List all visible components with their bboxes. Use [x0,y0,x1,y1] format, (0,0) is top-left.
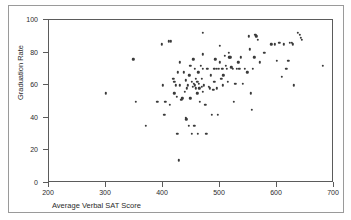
data-point [242,82,244,84]
data-point [278,42,280,44]
data-point [285,68,287,70]
data-point [205,133,207,135]
data-point [231,68,233,70]
data-point [292,43,294,45]
x-axis-tick-label: 500 [213,189,225,196]
data-point [206,68,208,70]
data-point [169,104,171,106]
data-point [178,159,180,161]
y-axis-tick [43,149,48,150]
data-point [186,87,188,89]
data-point [183,91,185,93]
data-point [198,82,200,84]
data-point [170,40,172,42]
data-point [283,43,285,45]
data-point [187,84,189,86]
data-point [210,74,212,76]
data-point [132,58,134,60]
data-point [227,51,229,53]
data-point [162,84,164,86]
data-point [179,61,181,63]
data-point [293,84,295,86]
data-point [173,81,175,83]
data-point [244,68,246,70]
x-axis-tick-label: 300 [99,189,111,196]
data-point [250,92,252,94]
data-point [197,133,199,135]
data-point [270,43,272,45]
data-point [263,51,265,53]
data-point [164,100,166,102]
data-points-layer [49,20,332,181]
x-axis-tick [333,182,334,187]
data-point [194,68,196,70]
data-point [190,133,192,135]
data-point [203,84,205,86]
data-point [227,81,229,83]
data-point [219,61,221,63]
data-point [212,89,214,91]
data-point [246,71,248,73]
data-point [226,68,228,70]
data-point [222,84,224,86]
y-axis-tick-label: 100 [12,16,38,23]
data-point [259,61,261,63]
data-point [235,82,237,84]
y-axis-tick [43,19,48,20]
x-axis-tick [105,182,106,187]
data-point [193,125,195,127]
data-point [204,104,206,106]
x-axis-tick [48,182,49,187]
data-point [163,113,165,115]
data-point [238,68,240,70]
data-point [192,58,194,60]
data-point [218,68,220,70]
y-axis-tick [43,84,48,85]
x-axis-tick-label: 600 [270,189,282,196]
data-point [191,86,193,88]
data-point [209,87,211,89]
data-point [202,53,204,55]
data-point [194,84,196,86]
data-point [198,87,200,89]
data-point [175,95,177,97]
data-point [247,35,249,37]
data-point [239,56,241,58]
data-point [202,68,204,70]
data-point [280,76,282,78]
y-axis-tick-label: 20 [12,146,38,153]
data-point [202,32,204,34]
data-point [222,74,224,76]
data-point [221,68,223,70]
data-point [156,100,158,102]
data-point [229,56,231,58]
data-point [276,60,278,62]
scatter-plot-figure: 020406080100 200300400500600700 Average … [0,0,351,220]
x-axis-tick-label: 400 [156,189,168,196]
data-point [215,87,217,89]
data-point [220,77,222,79]
data-point [188,74,190,76]
data-point [255,35,257,37]
data-point [173,92,175,94]
y-axis-tick [43,52,48,53]
data-point [134,100,136,102]
x-axis-tick-label: 200 [42,189,54,196]
data-point [201,86,203,88]
x-axis-tick [219,182,220,187]
data-point [179,84,181,86]
y-axis-title: Graduation Rate [16,45,25,100]
y-axis-tick-label: 0 [12,179,38,186]
y-axis-tick-label: 40 [12,113,38,120]
plot-area [48,19,333,182]
data-point [223,55,225,57]
data-point [237,61,239,63]
data-point [105,92,107,94]
y-axis-tick [43,117,48,118]
data-point [185,79,187,81]
data-point [185,118,187,120]
data-point [199,100,201,102]
data-point [321,64,323,66]
data-point [145,125,147,127]
data-point [251,108,253,110]
